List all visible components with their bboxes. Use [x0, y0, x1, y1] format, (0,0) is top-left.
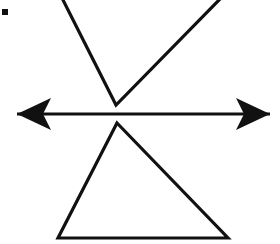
figure-canvas [0, 0, 280, 244]
corner-mark [2, 9, 8, 15]
line-figure-svg [0, 0, 280, 244]
